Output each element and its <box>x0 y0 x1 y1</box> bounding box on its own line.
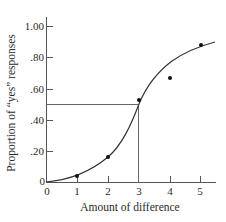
data-point <box>75 174 79 178</box>
y-tick-label: .20 <box>30 145 44 157</box>
x-tick-label: 4 <box>167 185 173 197</box>
x-tick-labels: 0 1 2 3 4 5 <box>44 185 203 197</box>
psychometric-chart: 1.00 .80 .60 .40 .20 0 0 1 2 3 4 5 Amoun… <box>0 0 226 222</box>
y-tick-label: .40 <box>30 114 44 126</box>
x-tick-label: 1 <box>74 185 80 197</box>
data-point <box>106 155 110 159</box>
x-tick-label: 5 <box>197 185 203 197</box>
data-point <box>199 43 203 47</box>
data-point <box>137 98 141 102</box>
x-tick-label: 0 <box>44 185 50 197</box>
y-tick-label: 1.00 <box>25 20 45 32</box>
x-axis-label: Amount of difference <box>80 201 179 213</box>
y-tick-labels: 1.00 .80 .60 .40 .20 0 <box>25 20 46 187</box>
y-tick-label: .80 <box>30 51 44 63</box>
x-tick-label: 3 <box>136 185 142 197</box>
fitted-curve <box>46 42 215 182</box>
y-tick-label: .60 <box>30 83 44 95</box>
y-axis-label: Proportion of “yes” responses <box>5 34 18 172</box>
data-point <box>168 76 172 80</box>
axes <box>46 17 216 183</box>
y-ticks <box>46 27 53 152</box>
x-tick-label: 2 <box>105 185 111 197</box>
threshold-guide <box>46 104 139 183</box>
